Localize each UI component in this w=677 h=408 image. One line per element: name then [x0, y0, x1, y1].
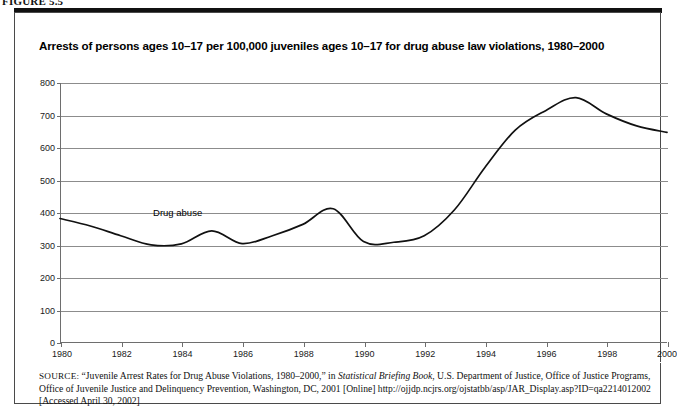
x-tick-label: 1992: [415, 349, 435, 359]
figure-label: FIGURE 5.5: [2, 0, 63, 7]
y-tick-label: 200: [40, 273, 55, 283]
x-tick-label: 1998: [597, 349, 617, 359]
drug-abuse-line-series: [60, 83, 667, 343]
source-note: SOURCE: “Juvenile Arrest Rates for Drug …: [39, 370, 655, 408]
series-label-drug-abuse: Drug abuse: [153, 207, 202, 218]
y-tick-label: 500: [40, 176, 55, 186]
x-tick-label: 1988: [294, 349, 314, 359]
x-tick-label: 1984: [172, 349, 192, 359]
y-tick-label: 300: [40, 241, 55, 251]
source-text-1: “Juvenile Arrest Rates for Drug Abuse Vi…: [79, 370, 338, 381]
x-tick-label: 1980: [52, 349, 72, 359]
source-publication-title: Statistical Briefing Book: [338, 370, 432, 381]
y-tick-label: 600: [40, 143, 55, 153]
chart-title: Arrests of persons ages 10–17 per 100,00…: [39, 39, 659, 52]
chart-plot: 0100200300400500600700800198019821984198…: [60, 83, 667, 343]
x-tick-mark: [668, 342, 669, 347]
x-tick-label: 1996: [537, 349, 557, 359]
source-prefix: SOURCE:: [39, 371, 79, 381]
x-tick-label: 2000: [657, 349, 677, 359]
y-tick-label: 400: [40, 208, 55, 218]
source-divider: [30, 362, 675, 363]
y-tick-label: 700: [40, 111, 55, 121]
x-tick-label: 1994: [476, 349, 496, 359]
figure-frame: Arrests of persons ages 10–17 per 100,00…: [14, 12, 661, 404]
series-path-drug-abuse: [60, 98, 667, 246]
x-tick-label: 1982: [112, 349, 132, 359]
y-tick-label: 0: [50, 338, 55, 348]
x-tick-label: 1986: [233, 349, 253, 359]
y-tick-label: 800: [40, 78, 55, 88]
y-tick-label: 100: [40, 306, 55, 316]
x-tick-label: 1990: [354, 349, 374, 359]
